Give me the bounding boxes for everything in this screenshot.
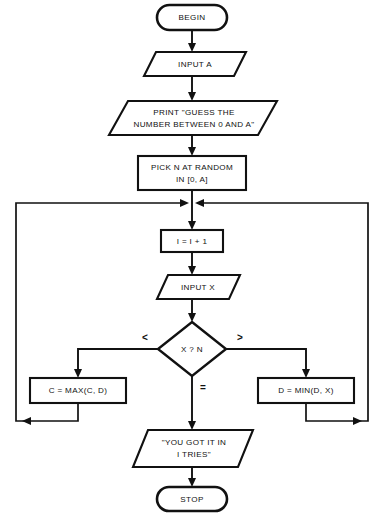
connector-increment-to-input-x <box>188 252 196 275</box>
node-set-c: C = MAX(C, D) <box>30 378 126 403</box>
node-decision-compare-label: X ? N <box>181 345 203 354</box>
node-output-result-line1: "YOU GOT IT IN <box>162 438 227 447</box>
connector-input-x-to-decision <box>188 299 196 322</box>
node-begin: BEGIN <box>157 5 227 30</box>
connector-output-to-stop <box>188 467 196 487</box>
node-input-x: INPUT X <box>157 275 240 299</box>
connector-begin-to-input-a <box>188 30 196 52</box>
connector-decision-greater-to-set-d <box>226 349 310 378</box>
node-output-result: "YOU GOT IT IN I TRIES" <box>133 430 253 467</box>
node-set-c-label: C = MAX(C, D) <box>49 386 108 395</box>
branch-label-less-than: < <box>142 332 148 343</box>
node-stop: STOP <box>157 487 227 511</box>
node-input-a-label: INPUT A <box>178 60 212 69</box>
branch-label-greater-than: > <box>237 332 243 343</box>
node-increment-i: I = I + 1 <box>161 230 223 252</box>
connector-junction-to-increment <box>188 203 196 230</box>
node-decision-compare: X ? N <box>158 322 226 376</box>
node-output-result-line2: I TRIES" <box>177 450 211 459</box>
node-set-d: D = MIN(D, X) <box>258 378 354 403</box>
node-input-a: INPUT A <box>144 52 246 76</box>
connector-print-to-pick-n <box>188 135 196 156</box>
branch-label-equal: = <box>200 382 206 393</box>
flowchart-canvas: BEGIN INPUT A PRINT "GUESS THE NUMBER BE… <box>0 0 384 514</box>
flowchart-diagram: BEGIN INPUT A PRINT "GUESS THE NUMBER BE… <box>0 0 384 514</box>
connector-input-a-to-print <box>188 76 196 101</box>
node-begin-label: BEGIN <box>179 13 206 22</box>
node-stop-label: STOP <box>180 495 203 504</box>
node-print-prompt-line1: PRINT "GUESS THE <box>153 108 235 117</box>
node-print-prompt-line2: NUMBER BETWEEN 0 AND A" <box>133 120 254 129</box>
node-pick-n: PICK N AT RANDOM IN [0, A] <box>138 156 246 190</box>
connector-decision-equal-to-output <box>188 376 196 430</box>
node-pick-n-line2: IN [0, A] <box>176 175 208 184</box>
connector-decision-less-to-set-c <box>74 349 158 378</box>
node-print-prompt: PRINT "GUESS THE NUMBER BETWEEN 0 AND A" <box>109 101 277 135</box>
node-increment-i-label: I = I + 1 <box>177 237 208 246</box>
node-pick-n-line1: PICK N AT RANDOM <box>151 163 233 172</box>
node-set-d-label: D = MIN(D, X) <box>278 386 334 395</box>
node-input-x-label: INPUT X <box>181 283 215 292</box>
